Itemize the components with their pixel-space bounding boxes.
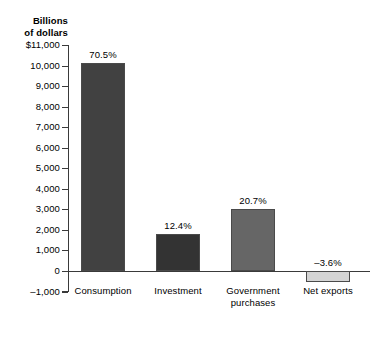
y-axis-tick xyxy=(62,66,68,67)
y-axis-tick xyxy=(62,230,68,231)
bar-net-exports xyxy=(306,271,350,282)
y-axis-tick-label: 6,000 xyxy=(0,143,60,153)
y-axis-tick xyxy=(62,209,68,210)
y-axis-tick-label: –1,000 xyxy=(0,287,60,297)
y-axis-tick xyxy=(62,86,68,87)
bar-investment xyxy=(156,234,200,271)
y-axis-tick-label: 8,000 xyxy=(0,102,60,112)
y-axis-tick-label: 2,000 xyxy=(0,225,60,235)
y-axis-tick-label: 9,000 xyxy=(0,81,60,91)
y-axis-tick-label: 1,000 xyxy=(0,245,60,255)
y-axis-tick xyxy=(62,168,68,169)
bar-value-label: –3.6% xyxy=(288,257,368,268)
y-axis-line xyxy=(68,45,69,292)
y-axis-tick-label: 10,000 xyxy=(0,61,60,71)
y-axis-tick-label: $11,000 xyxy=(0,40,60,50)
bar-value-label: 12.4% xyxy=(138,220,218,231)
y-axis-title: Billions of dollars xyxy=(0,15,68,38)
y-axis-tick xyxy=(62,148,68,149)
y-axis-tick xyxy=(62,189,68,190)
bar-consumption xyxy=(81,63,125,271)
bar-chart: Billions of dollars $11,00010,0009,0008,… xyxy=(0,0,384,337)
y-axis-tick-label: 5,000 xyxy=(0,163,60,173)
y-axis-tick xyxy=(62,250,68,251)
bar-value-label: 20.7% xyxy=(213,195,293,206)
bar-value-label: 70.5% xyxy=(63,49,143,60)
y-axis-tick xyxy=(62,107,68,108)
bar-government-purchases xyxy=(231,209,275,271)
y-axis-tick xyxy=(62,45,68,46)
y-axis-tick-label: 4,000 xyxy=(0,184,60,194)
y-axis-tick xyxy=(62,127,68,128)
y-axis-tick-label: 0 xyxy=(0,266,60,276)
y-axis-tick-label: 7,000 xyxy=(0,122,60,132)
x-axis-category-label: Net exports xyxy=(283,285,373,297)
y-axis-tick-label: 3,000 xyxy=(0,204,60,214)
